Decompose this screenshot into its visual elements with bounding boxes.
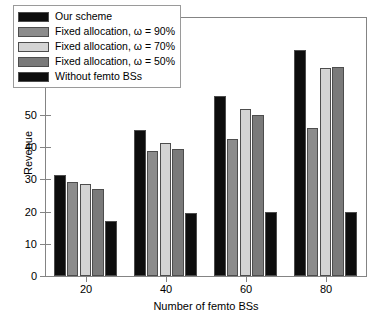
y-axis-tick-inner: [46, 276, 51, 277]
legend-item: Our scheme: [18, 9, 175, 24]
x-axis-tick-label: 40: [160, 283, 172, 295]
legend-item: Fixed allocation, ω = 70%: [18, 39, 175, 54]
bar: [160, 143, 172, 277]
bar: [54, 175, 66, 276]
y-axis-tick-label: 0: [31, 270, 37, 282]
bar: [134, 130, 146, 276]
legend-item-label: Our scheme: [55, 11, 112, 22]
y-axis-tick-inner: [46, 244, 51, 245]
bar: [80, 184, 92, 276]
bar: [105, 221, 117, 276]
legend-swatch-icon: [18, 42, 49, 52]
legend-item: Without femto BSs: [18, 69, 175, 84]
legend-item: Fixed allocation, ω = 50%: [18, 54, 175, 69]
bar: [265, 212, 277, 276]
x-axis-title: Number of femto BSs: [45, 300, 367, 312]
legend-swatch-icon: [18, 12, 49, 22]
x-axis-tick: [326, 276, 327, 282]
bar: [320, 68, 332, 276]
legend-swatch-icon: [18, 27, 49, 37]
legend-item-label: Fixed allocation, ω = 50%: [55, 56, 175, 67]
legend-item: Fixed allocation, ω = 90%: [18, 24, 175, 39]
x-axis-tick: [166, 276, 167, 282]
legend-swatch-icon: [18, 72, 49, 82]
bar: [172, 149, 184, 276]
legend-item-label: Without femto BSs: [55, 71, 142, 82]
x-axis-tick-label: 60: [240, 283, 252, 295]
y-axis-tick-label: 50: [25, 109, 37, 121]
y-axis-tick-label: 10: [25, 238, 37, 250]
y-axis-tick-inner: [46, 212, 51, 213]
y-axis-tick-inner: [46, 115, 51, 116]
x-axis-tick-label: 80: [320, 283, 332, 295]
bar: [345, 212, 357, 277]
legend-swatch-icon: [18, 57, 49, 67]
chart-legend: Our schemeFixed allocation, ω = 90%Fixed…: [13, 5, 181, 88]
y-axis-tick-label: 20: [25, 206, 37, 218]
x-axis-tick: [86, 276, 87, 282]
bar: [252, 115, 264, 276]
x-axis-tick: [246, 276, 247, 282]
bar: [185, 213, 197, 276]
legend-item-label: Fixed allocation, ω = 90%: [55, 26, 175, 37]
bar: [214, 96, 226, 276]
legend-item-label: Fixed allocation, ω = 70%: [55, 41, 175, 52]
y-axis-tick-inner: [46, 179, 51, 180]
bar-chart-figure: 0102030405060708020406080 Number of femt…: [0, 0, 385, 322]
bar: [92, 189, 104, 276]
bar: [227, 139, 239, 276]
bar: [240, 109, 252, 276]
y-axis-tick-inner: [46, 147, 51, 148]
bar: [332, 67, 344, 276]
bar: [147, 151, 159, 276]
bar: [294, 50, 306, 276]
y-axis-title: Revenue: [22, 123, 34, 183]
bar: [67, 182, 79, 276]
bar: [307, 128, 319, 276]
x-axis-tick-label: 20: [80, 283, 92, 295]
